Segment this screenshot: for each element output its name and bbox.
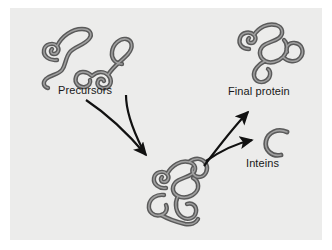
protein-splicing-figure: Precursors Final protein Inteins: [0, 0, 332, 250]
diagram-canvas: [0, 0, 332, 250]
label-inteins: Inteins: [246, 157, 279, 169]
molecule-intermediate-complex: [149, 159, 207, 224]
molecule-precursor-right: [76, 39, 132, 88]
label-precursors: Precursors: [58, 84, 112, 96]
molecule-final-protein: [239, 24, 302, 82]
molecule-inteins: [266, 130, 287, 155]
molecule-precursor-left: [44, 29, 91, 88]
arrow-precursor-left-to-intermediate: [86, 100, 146, 155]
label-final-protein: Final protein: [228, 85, 290, 97]
